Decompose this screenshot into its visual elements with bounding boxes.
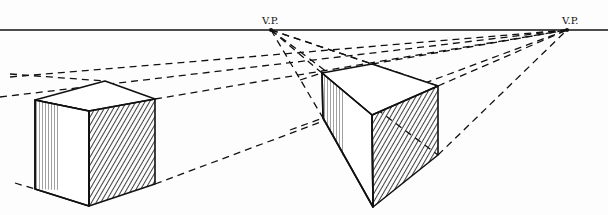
- diagram-canvas: V.P. V.P.: [0, 0, 608, 215]
- vp-right-label: V.P.: [561, 15, 579, 26]
- perspective-diagram: V.P. V.P.: [0, 0, 608, 215]
- vp-left-label: V.P.: [261, 15, 279, 26]
- left-cube: [35, 81, 155, 206]
- right-cube: [322, 64, 438, 207]
- left-cube-right-face: [89, 99, 155, 206]
